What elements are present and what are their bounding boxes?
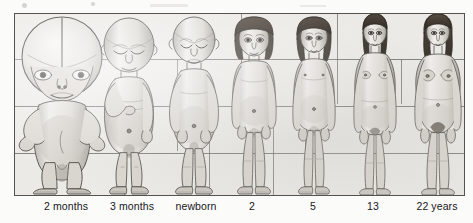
age-label-newborn: newborn <box>176 199 217 213</box>
illustration-plate <box>14 13 465 196</box>
scan-artifact-smudge <box>300 5 326 7</box>
figure-stage-13-years <box>345 14 405 195</box>
age-label-22-years: 22 years <box>416 199 457 213</box>
scan-artifact-speck <box>91 2 95 6</box>
figure-stage-22-years <box>407 14 465 195</box>
scan-artifact-smudge <box>150 4 188 7</box>
fetus-3-months-illustration <box>90 15 168 195</box>
figure-stage-2-years <box>221 14 287 195</box>
figure-stage-3-months <box>90 14 168 195</box>
age-label-13-years: 13 <box>367 199 379 213</box>
adult-22-years-illustration <box>407 13 465 195</box>
figure-stage-5-years <box>283 14 345 195</box>
scan-artifact-speck <box>22 3 27 8</box>
age-label-3-months: 3 months <box>110 199 154 213</box>
age-label-5-years: 5 <box>310 199 316 213</box>
age-label-row: 2 months 3 months newborn 2 5 13 22 year… <box>14 199 465 217</box>
child-5-years-illustration <box>283 15 345 195</box>
child-2-years-illustration <box>221 15 287 195</box>
growth-proportions-figure: 2 months 3 months newborn 2 5 13 22 year… <box>0 0 473 223</box>
age-label-2-months: 2 months <box>44 199 88 213</box>
age-label-2-years: 2 <box>249 199 255 213</box>
adolescent-13-years-illustration <box>345 13 405 195</box>
newborn-illustration <box>158 15 230 195</box>
figure-stage-newborn <box>158 14 230 195</box>
